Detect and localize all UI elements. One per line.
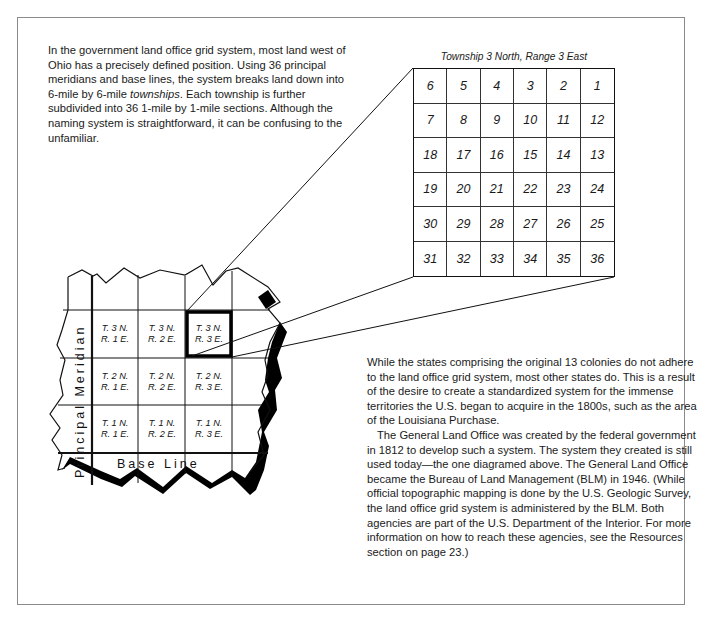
township-label: T. 1 N. <box>196 418 223 428</box>
township-label: T. 1 N. <box>102 418 129 428</box>
township-label: T. 1 N. <box>149 418 176 428</box>
township-label: T. 3 N. <box>196 323 223 333</box>
range-label: R. 1 E. <box>101 382 129 392</box>
base-line-label: Base Line <box>117 457 200 471</box>
zoom-connector-lines <box>187 68 614 357</box>
township-labels: T. 3 N.R. 1 E.T. 3 N.R. 2 E.T. 3 N.R. 3 … <box>101 323 223 439</box>
range-label: R. 2 E. <box>148 429 176 439</box>
township-label: T. 2 N. <box>102 371 129 381</box>
township-label: T. 2 N. <box>149 371 176 381</box>
body-paragraph-2: The General Land Office was created by t… <box>367 428 697 559</box>
township-label: T. 2 N. <box>196 371 223 381</box>
range-label: R. 3 E. <box>195 334 223 344</box>
range-label: R. 2 E. <box>148 382 176 392</box>
range-label: R. 2 E. <box>148 334 176 344</box>
principal-meridian-label: Principal Meridian <box>73 325 87 478</box>
body-paragraph-1: While the states comprising the original… <box>367 355 697 428</box>
range-label: R. 3 E. <box>195 429 223 439</box>
township-label: T. 3 N. <box>102 323 129 333</box>
range-label: R. 3 E. <box>195 382 223 392</box>
range-label: R. 1 E. <box>101 429 129 439</box>
range-label: R. 1 E. <box>101 334 129 344</box>
township-label: T. 3 N. <box>149 323 176 333</box>
body-text: While the states comprising the original… <box>367 355 697 559</box>
